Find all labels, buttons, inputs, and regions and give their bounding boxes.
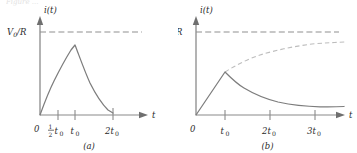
- svg-text:t: t: [221, 126, 225, 136]
- panel-a-origin-label: 0: [34, 124, 40, 134]
- panel-b-caption: (b): [178, 141, 357, 151]
- figure-root: Figure ... i(t) t V0/R: [0, 0, 357, 153]
- svg-text:0: 0: [317, 130, 321, 137]
- panel-b-labels: i(t) t V0/R 0 t 0 2t 0 3t 0: [178, 0, 357, 153]
- panel-a-asymptote-label: V0/R: [7, 27, 27, 38]
- panel-b-ticklabel-t0: t 0: [221, 126, 230, 137]
- svg-text:0: 0: [272, 130, 276, 137]
- svg-text:V0/R: V0/R: [7, 27, 27, 38]
- svg-text:2t: 2t: [261, 126, 271, 136]
- svg-text:t: t: [55, 126, 59, 136]
- panel-a-ticklabel-t0: t 0: [71, 126, 80, 137]
- svg-text:2: 2: [49, 131, 53, 138]
- panel-a-ticklabel-2t0: 2t 0: [104, 126, 119, 137]
- svg-text:0: 0: [60, 130, 64, 137]
- svg-text:1: 1: [49, 123, 53, 130]
- panel-a-y-axis-label: i(t): [44, 5, 57, 15]
- svg-text:0: 0: [226, 130, 230, 137]
- panel-a-ticklabel-half-t0: 1 2 t 0: [48, 123, 64, 139]
- panel-b-ticklabel-3t0: 3t 0: [307, 126, 321, 137]
- chart-panel-a: i(t) t V0/R 0 1 2 t 0 t 0 2t: [0, 0, 178, 153]
- svg-text:V0/R: V0/R: [178, 27, 183, 38]
- panel-b-asymptote-label: V0/R: [178, 27, 183, 38]
- panel-b-origin-label: 0: [190, 124, 196, 134]
- svg-text:2t: 2t: [104, 126, 114, 136]
- chart-panel-b: i(t) t V0/R 0 t 0 2t 0 3t 0 (b): [178, 0, 357, 153]
- panel-a-x-axis-label: t: [152, 110, 156, 120]
- svg-text:t: t: [71, 126, 75, 136]
- panel-b-x-axis-label: t: [349, 110, 353, 120]
- panel-a-caption: (a): [0, 141, 178, 151]
- svg-text:3t: 3t: [307, 126, 316, 136]
- panel-b-y-axis-label: i(t): [200, 5, 213, 15]
- panel-a-labels: i(t) t V0/R 0 1 2 t 0 t 0 2t: [0, 0, 178, 153]
- svg-text:0: 0: [115, 130, 119, 137]
- svg-text:0: 0: [76, 130, 80, 137]
- panel-b-ticklabel-2t0: 2t 0: [261, 126, 276, 137]
